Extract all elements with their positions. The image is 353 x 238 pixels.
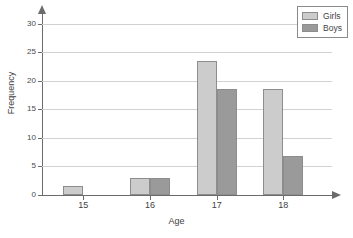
bar-boys-17	[217, 89, 237, 195]
bar-girls-18	[263, 89, 283, 195]
bar-girls-16	[130, 178, 150, 195]
legend: Girls Boys	[297, 6, 348, 38]
legend-swatch-boys-icon	[302, 24, 318, 32]
x-tick-label: 17	[197, 201, 237, 210]
y-tick-label: 30	[6, 20, 36, 28]
bar-boys-16	[150, 178, 170, 195]
legend-label-boys: Boys	[323, 24, 342, 33]
bar-girls-15	[63, 186, 83, 195]
x-tick-label: 15	[63, 201, 103, 210]
y-tick-label: 0	[6, 191, 36, 199]
legend-item-boys[interactable]: Boys	[302, 22, 342, 34]
x-axis-title: Age	[0, 216, 353, 226]
y-tick-label: 5	[6, 162, 36, 170]
bar-boys-18	[283, 156, 303, 195]
y-axis-arrow-icon	[38, 5, 46, 14]
x-axis-line	[42, 195, 332, 196]
x-axis-arrow-icon	[332, 191, 341, 199]
plot-area	[42, 18, 332, 195]
bar-girls-17	[197, 61, 217, 195]
legend-swatch-girls-icon	[302, 12, 318, 20]
legend-item-girls[interactable]: Girls	[302, 10, 342, 22]
y-tick-mark	[38, 195, 42, 196]
legend-label-girls: Girls	[323, 12, 340, 21]
x-tick-label: 18	[263, 201, 303, 210]
bar-chart: 051015202530 15161718 Frequency Age Girl…	[0, 0, 353, 238]
x-tick-label: 16	[130, 201, 170, 210]
y-axis-title: Frequency	[6, 38, 16, 148]
